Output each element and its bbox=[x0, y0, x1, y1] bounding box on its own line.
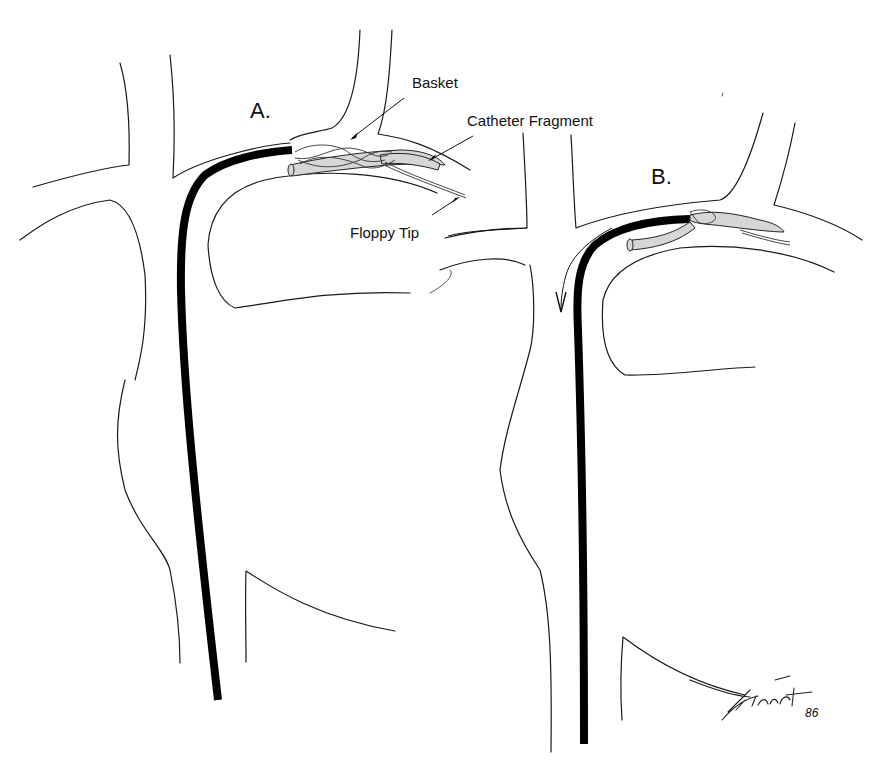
vessel-outline bbox=[33, 63, 129, 187]
basket-label: Basket bbox=[412, 74, 459, 91]
vessel-outline bbox=[602, 246, 834, 375]
basket-leader bbox=[352, 98, 404, 138]
catheter-fragment-label: Catheter Fragment bbox=[467, 112, 594, 129]
vessel-outline bbox=[774, 123, 862, 240]
panel-b-label: B. bbox=[651, 164, 672, 189]
vessel-outline bbox=[430, 270, 451, 293]
vessel-outline bbox=[20, 200, 146, 380]
vessel-outline bbox=[440, 259, 525, 270]
vessel-outline bbox=[500, 265, 551, 752]
floppy-tip-label: Floppy Tip bbox=[350, 224, 419, 241]
signature-year: 86 bbox=[805, 706, 819, 720]
fragment-leader bbox=[430, 136, 473, 160]
artist-signature: 86 bbox=[690, 676, 819, 720]
speck bbox=[722, 93, 723, 96]
vessel-outline bbox=[445, 133, 527, 238]
vessel-outline bbox=[378, 30, 470, 170]
panel-a: A. Basket Catheter Fragment Floppy Tip bbox=[20, 30, 594, 700]
retrieval-catheter bbox=[181, 150, 292, 700]
panel-a-label: A. bbox=[250, 98, 271, 123]
vessel-outline bbox=[621, 637, 745, 720]
vessel-outline bbox=[118, 380, 181, 663]
medical-illustration: A. Basket Catheter Fragment Floppy Tip bbox=[0, 0, 887, 771]
catheter-fragment-b bbox=[627, 210, 790, 251]
panel-b: B. bbox=[440, 113, 862, 752]
vessel-outline bbox=[246, 571, 395, 662]
vessel-outline bbox=[290, 30, 360, 140]
retrieval-catheter bbox=[577, 219, 690, 744]
catheter-fragment-a bbox=[288, 150, 445, 176]
